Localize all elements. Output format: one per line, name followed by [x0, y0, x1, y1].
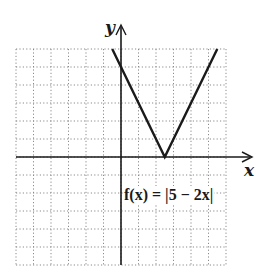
- function-graph: [0, 0, 270, 278]
- function-curve: [112, 49, 217, 157]
- x-axis-label: x: [244, 160, 254, 180]
- function-label: f(x) = |5 − 2x|: [123, 186, 214, 204]
- y-axis-label: y: [105, 17, 115, 37]
